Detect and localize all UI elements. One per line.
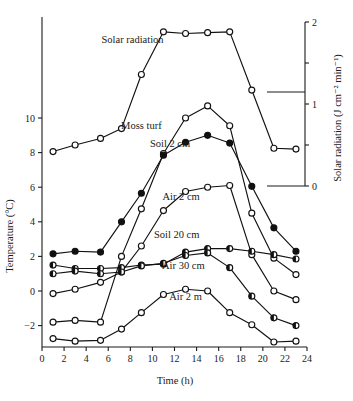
y2-tick-label: 2 xyxy=(312,17,317,28)
data-point xyxy=(205,103,211,109)
data-point xyxy=(271,145,277,151)
x-tick-label: 10 xyxy=(147,353,157,364)
x-tick-label: 14 xyxy=(192,353,202,364)
x-tick-label: 12 xyxy=(170,353,180,364)
x-tick-label: 20 xyxy=(258,353,268,364)
x-tick-label: 8 xyxy=(128,353,133,364)
figure-container: −20246810 024681012141618202224 012 Sola… xyxy=(0,0,353,401)
x-axis-title: Time (h) xyxy=(157,375,194,387)
series-annotation-air-2-m: Air 2 m xyxy=(169,291,202,302)
right-axis: 012 xyxy=(267,17,317,192)
series-annotation-soil-20-cm: Soil 20 cm xyxy=(154,229,200,240)
data-point xyxy=(293,272,299,278)
data-point xyxy=(227,310,233,316)
y-tick-label: 0 xyxy=(30,286,35,297)
data-point xyxy=(205,288,211,294)
data-point xyxy=(249,87,255,93)
data-point xyxy=(98,319,104,325)
data-point xyxy=(98,279,104,285)
data-point xyxy=(72,317,78,323)
data-point xyxy=(72,248,78,254)
data-point xyxy=(160,208,166,214)
y2-axis-title: Solar radiation (J cm⁻² min⁻¹) xyxy=(332,54,344,182)
data-point xyxy=(227,123,233,129)
y-tick-label: 6 xyxy=(30,182,35,193)
data-point xyxy=(160,152,166,158)
data-point xyxy=(205,30,211,36)
data-point xyxy=(205,184,211,190)
data-point xyxy=(138,206,144,212)
data-point xyxy=(183,115,189,121)
data-point xyxy=(72,286,78,292)
series-annotation-solar-radiation: Solar radiation xyxy=(101,34,164,45)
data-point xyxy=(160,291,166,297)
data-point xyxy=(293,248,299,254)
data-point xyxy=(119,253,125,259)
data-point xyxy=(183,30,189,36)
data-point xyxy=(98,249,104,255)
x-tick-label: 2 xyxy=(62,353,67,364)
data-point xyxy=(50,319,56,325)
data-point xyxy=(50,251,56,257)
series-line xyxy=(53,185,296,299)
x-tick-label: 22 xyxy=(280,353,290,364)
data-point xyxy=(98,135,104,141)
data-point xyxy=(119,326,125,332)
data-point xyxy=(138,190,144,196)
chart-canvas: −20246810 024681012141618202224 012 Sola… xyxy=(0,0,353,401)
data-point xyxy=(72,142,78,148)
series-line xyxy=(53,32,296,152)
data-point xyxy=(271,288,277,294)
y-tick-label: 4 xyxy=(30,216,35,227)
series-annotation-air-2-cm: Air 2 cm xyxy=(162,191,199,202)
data-point xyxy=(227,29,233,35)
data-point xyxy=(138,310,144,316)
y2-tick-label: 0 xyxy=(312,181,317,192)
data-point xyxy=(50,149,56,155)
data-point xyxy=(138,71,144,77)
x-tick-label: 24 xyxy=(302,353,312,364)
x-tick-label: 6 xyxy=(106,353,111,364)
y-tick-label: −2 xyxy=(24,320,35,331)
data-point xyxy=(293,297,299,303)
data-point xyxy=(249,183,255,189)
data-point xyxy=(50,336,56,342)
x-tick-label: 4 xyxy=(84,353,89,364)
data-point xyxy=(138,243,144,249)
data-point xyxy=(72,338,78,344)
data-point xyxy=(98,337,104,343)
data-point xyxy=(293,338,299,344)
data-point xyxy=(227,140,233,146)
left-axis: −20246810 xyxy=(24,17,42,347)
y2-tick-label: 1 xyxy=(312,99,317,110)
x-tick-label: 16 xyxy=(214,353,224,364)
data-point xyxy=(271,339,277,345)
y-axis-title: Temperature (°C) xyxy=(4,199,16,273)
series-annotation-soil-2-cm: Soil 2 cm xyxy=(150,138,190,149)
series-label-group: Solar radiationMoss turfSoil 2 cmAir 2 c… xyxy=(101,34,204,301)
bottom-axis: 024681012141618202224 xyxy=(40,347,313,364)
y-tick-label: 10 xyxy=(25,113,35,124)
data-point xyxy=(293,146,299,152)
data-point xyxy=(271,225,277,231)
data-point xyxy=(249,210,255,216)
y-tick-label: 8 xyxy=(30,147,35,158)
data-point xyxy=(205,132,211,138)
data-point xyxy=(119,219,125,225)
data-point xyxy=(249,322,255,328)
x-tick-label: 0 xyxy=(40,353,45,364)
x-tick-label: 18 xyxy=(236,353,246,364)
data-point xyxy=(50,291,56,297)
y-tick-label: 2 xyxy=(30,251,35,262)
data-point xyxy=(227,182,233,188)
series-annotation-moss-turf: Moss turf xyxy=(121,120,162,131)
series-annotation-air-30-cm: Air 30 cm xyxy=(162,260,205,271)
